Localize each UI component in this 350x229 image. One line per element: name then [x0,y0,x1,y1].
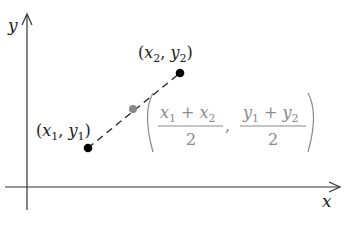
x-numerator: x1+x2 [160,103,215,125]
y-axis-label: y [7,15,18,35]
x-denominator: 2 [186,130,196,149]
x-axis-label: x [322,191,332,211]
point-midpoint [129,105,137,113]
point-p2 [176,69,185,78]
left-paren [148,93,154,152]
right-paren [308,93,314,152]
y-numerator: y1+y2 [242,103,299,125]
point-p2-label: (x2, y2) [138,43,193,65]
midpoint-formula: x1+x2 2 , y1+y2 2 [148,93,314,152]
point-p1-label: (x1, y1) [36,121,91,143]
formula-separator: , [225,116,230,135]
y-denominator: 2 [268,130,278,149]
midpoint-diagram: y x (x1, y1) (x2, y2) x1+x2 2 , y1+y2 2 [0,0,350,229]
point-p1 [84,144,93,153]
